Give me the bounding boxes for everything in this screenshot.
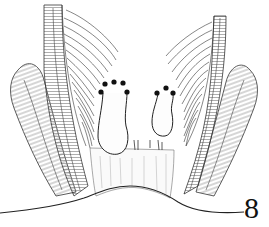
figure-number-label: 8 [244, 193, 259, 223]
ligature-dots-left [98, 79, 129, 94]
right-hemorrhoid [152, 94, 173, 136]
left-hemorrhoid [98, 93, 128, 154]
anatomical-illustration [0, 0, 269, 227]
